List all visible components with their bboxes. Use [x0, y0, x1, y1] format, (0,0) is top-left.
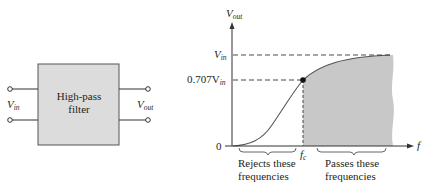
- vin-level-label: Vin: [214, 48, 227, 62]
- zero-label: 0: [216, 140, 222, 152]
- box-label-line1: High-pass: [57, 90, 102, 102]
- reject-label-line1: Rejects these: [238, 157, 296, 169]
- reject-label-line2: frequencies: [238, 170, 289, 182]
- input-label: Vin: [7, 98, 20, 112]
- output-terminal-top-icon: [146, 87, 151, 92]
- cutoff-point-icon: [300, 77, 306, 83]
- x-axis-label: f: [417, 139, 422, 151]
- output-terminal-bottom-icon: [146, 118, 151, 123]
- pass-band-region: [303, 55, 394, 146]
- box-label-line2: filter: [68, 103, 90, 115]
- pass-label-line1: Passes these: [325, 157, 379, 169]
- output-label: Vout: [137, 98, 154, 112]
- pass-brace: [317, 148, 386, 155]
- pass-label-line2: frequencies: [325, 170, 376, 182]
- input-terminal-bottom-icon: [8, 118, 13, 123]
- fc-label: fc: [300, 148, 307, 162]
- x-axis-arrow-icon: [407, 144, 414, 149]
- output-terminals: Vout: [119, 87, 154, 123]
- high-pass-filter-diagram: High-pass filter Vin Vout Vout f Vin 0.7…: [0, 0, 425, 192]
- reject-brace: [239, 148, 296, 155]
- input-terminal-top-icon: [8, 87, 13, 92]
- input-terminals: Vin: [7, 87, 38, 123]
- y-axis-label: Vout: [226, 7, 243, 21]
- filter-block: High-pass filter: [38, 64, 119, 145]
- cutoff-level-label: 0.707Vin: [187, 73, 226, 87]
- y-axis-arrow-icon: [230, 22, 235, 29]
